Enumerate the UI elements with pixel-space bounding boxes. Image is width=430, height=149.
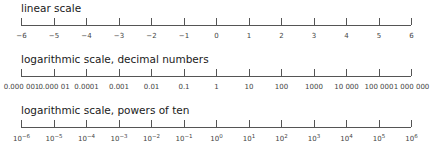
tick-label: −2 (146, 32, 156, 40)
axis-tick (151, 69, 152, 76)
exponent: 6 (414, 133, 418, 139)
exponent: 1 (252, 133, 256, 139)
tick-label: 106 (405, 133, 417, 143)
scale-title: logarithmic scale, powers of ten (21, 104, 189, 116)
tick-label: 103 (308, 133, 320, 143)
exponent: 4 (349, 133, 353, 139)
tick-label: 0.1 (178, 83, 189, 91)
axis-tick (379, 18, 380, 25)
tick-label: 10−2 (143, 133, 160, 143)
axis-line (21, 127, 411, 128)
axis-tick (346, 120, 347, 127)
axis-tick (151, 18, 152, 25)
exponent: −6 (22, 133, 30, 139)
axis-tick (281, 18, 282, 25)
axis-tick (281, 69, 282, 76)
tick-label: 10−6 (13, 133, 30, 143)
tick-label: 101 (243, 133, 255, 143)
tick-label: 1 000 000 (394, 83, 430, 91)
tick-label: 100 000 (365, 83, 394, 91)
tick-label: 3 (312, 32, 316, 40)
exponent: −1 (184, 133, 192, 139)
axis-line (21, 25, 411, 26)
axis-tick (86, 18, 87, 25)
tick-label: 100 (275, 83, 288, 91)
axis-tick (184, 120, 185, 127)
axis-tick (411, 69, 412, 76)
axis-tick (216, 18, 217, 25)
axis-tick (54, 69, 55, 76)
exponent: −4 (87, 133, 95, 139)
axis-tick (379, 120, 380, 127)
exponent: 2 (284, 133, 288, 139)
tick-label: 105 (373, 133, 385, 143)
tick-label: −3 (114, 32, 124, 40)
tick-label: 0.001 (109, 83, 129, 91)
axis-tick (281, 120, 282, 127)
tick-label: 0.000 001 (4, 83, 40, 91)
exponent: −5 (54, 133, 62, 139)
tick-label: 104 (340, 133, 352, 143)
exponent: −2 (152, 133, 160, 139)
axis-tick (314, 120, 315, 127)
axis-tick (249, 18, 250, 25)
tick-label: 0.01 (144, 83, 160, 91)
axis-tick (21, 69, 22, 76)
tick-label: 0 (214, 32, 218, 40)
tick-label: 10−4 (78, 133, 95, 143)
tick-label: 10−5 (45, 133, 62, 143)
axis-tick (314, 18, 315, 25)
tick-label: 0.000 01 (38, 83, 69, 91)
tick-label: 6 (409, 32, 413, 40)
axis-tick (21, 120, 22, 127)
tick-label: 5 (377, 32, 381, 40)
tick-label: 102 (275, 133, 287, 143)
axis-tick (346, 69, 347, 76)
axis-tick (54, 18, 55, 25)
axis-line (21, 76, 411, 77)
axis-tick (119, 18, 120, 25)
axis-tick (86, 120, 87, 127)
axis-tick (379, 69, 380, 76)
axis-tick (86, 69, 87, 76)
axis-tick (54, 120, 55, 127)
tick-label: 2 (279, 32, 283, 40)
axis-tick (249, 120, 250, 127)
tick-label: 1 (214, 83, 218, 91)
tick-label: −6 (16, 32, 26, 40)
axis-tick (184, 18, 185, 25)
tick-label: 1000 (305, 83, 323, 91)
exponent: 0 (219, 133, 223, 139)
tick-label: 0.0001 (74, 83, 99, 91)
axis-tick (184, 69, 185, 76)
axis-tick (411, 18, 412, 25)
exponent: −3 (119, 133, 127, 139)
tick-label: −5 (49, 32, 59, 40)
tick-label: −4 (81, 32, 91, 40)
tick-label: 1 (247, 32, 251, 40)
axis-tick (249, 69, 250, 76)
axis-tick (346, 18, 347, 25)
scale-title: logarithmic scale, decimal numbers (21, 53, 209, 65)
tick-label: −1 (179, 32, 189, 40)
exponent: 5 (382, 133, 386, 139)
tick-label: 10−3 (110, 133, 127, 143)
tick-label: 10 (245, 83, 254, 91)
axis-tick (151, 120, 152, 127)
tick-label: 100 (210, 133, 222, 143)
axis-tick (314, 69, 315, 76)
axis-tick (216, 69, 217, 76)
scale-title: linear scale (21, 2, 81, 14)
axis-tick (119, 69, 120, 76)
axis-tick (119, 120, 120, 127)
tick-label: 10−1 (175, 133, 192, 143)
axis-tick (21, 18, 22, 25)
axis-tick (411, 120, 412, 127)
exponent: 3 (317, 133, 321, 139)
tick-label: 4 (344, 32, 348, 40)
tick-label: 10 000 (334, 83, 359, 91)
axis-tick (216, 120, 217, 127)
